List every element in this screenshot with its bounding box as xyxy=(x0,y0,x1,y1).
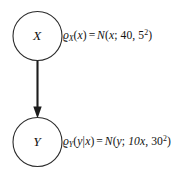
prior-mean: 40 xyxy=(121,29,133,42)
conditional-distribution: N xyxy=(105,135,113,148)
graph-svg xyxy=(0,0,181,176)
prior-distribution: N xyxy=(97,29,105,42)
arrowhead-icon xyxy=(33,107,41,119)
edge-x-to-y xyxy=(33,61,41,119)
conditional-dist-close: ) xyxy=(167,135,171,148)
prior-arg-close: ) xyxy=(83,29,87,42)
prior-comma: , xyxy=(132,29,135,42)
node-label-y: Y xyxy=(12,135,62,149)
conditional-equals: = xyxy=(96,135,103,148)
conditional-variance-base: 30 xyxy=(151,135,163,148)
formula-prior-density: ϱX(x)=N(x; 40, 52) xyxy=(63,29,152,43)
diagram-canvas: X Y ϱX(x)=N(x; 40, 52) ϱY(y|x)=N(y; 10x,… xyxy=(0,0,181,176)
conditional-mean: 10x xyxy=(128,135,145,148)
conditional-comma: , xyxy=(145,135,148,148)
prior-equals: = xyxy=(89,29,96,42)
conditional-semicolon: ; xyxy=(122,135,125,148)
conditional-argument: y xyxy=(77,135,82,148)
node-label-x: X xyxy=(12,29,62,43)
formula-conditional-density: ϱY(y|x)=N(y; 10x, 302) xyxy=(63,135,171,149)
conditional-arg-close: ) xyxy=(90,135,94,148)
prior-semicolon: ; xyxy=(114,29,117,42)
prior-dist-close: ) xyxy=(148,29,152,42)
